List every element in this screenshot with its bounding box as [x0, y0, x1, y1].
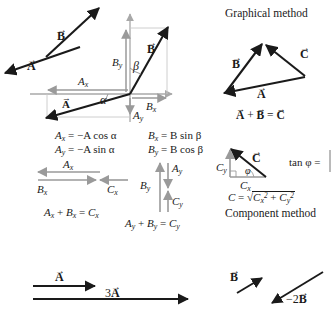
equation-Ay: Ay = −A sin α	[55, 144, 115, 157]
scalar-label-minus2B: −2→B	[286, 293, 307, 305]
graphical-label-B: →B	[232, 58, 240, 70]
equation-sum-x: Ax + Bx = Cx	[44, 207, 99, 220]
graphical-label-A: →A	[257, 88, 266, 100]
sum-label-Cx: Cx	[107, 184, 118, 197]
label-Bx: Bx	[146, 101, 156, 114]
graphical-equation: →A + →B = →C	[236, 110, 285, 122]
axis-vector-B-label: →B	[147, 43, 155, 55]
sum-label-Ay: Ay	[172, 163, 182, 176]
angle-label-phi: φ	[245, 166, 251, 176]
tan-phi-formula: tan φ =	[289, 157, 321, 168]
equation-Bx: Bx = B sin β	[148, 130, 201, 143]
vector-diagram-figure: →A →B →B →A By Bx Ax Ay α β Ax = −A cos …	[0, 0, 335, 315]
free-vector-A	[5, 47, 80, 73]
scalar-label-A: →A	[55, 271, 64, 283]
graphical-label-C: →C	[300, 48, 309, 60]
free-vector-A-label: →A	[27, 60, 36, 72]
sum-label-By: By	[140, 180, 150, 193]
sum-label-Cy: Cy	[172, 196, 183, 209]
scalar-label-B: →B	[230, 271, 238, 283]
sum-label-Bx: Bx	[37, 184, 47, 197]
right-angle-marker	[230, 171, 236, 177]
label-By: By	[112, 57, 122, 70]
label-Ay: Ay	[133, 110, 143, 123]
label-Ax: Ax	[78, 76, 88, 89]
axis-vector-A	[46, 94, 130, 118]
angle-label-alpha: α	[100, 94, 106, 106]
graphical-method-heading: Graphical method	[225, 8, 308, 20]
free-vector-B-label: →B	[57, 30, 65, 42]
angle-label-beta: β	[133, 60, 139, 72]
magnitude-formula: C = √Cx2 + Cy2	[228, 191, 295, 205]
component-label-C: →C	[252, 152, 261, 164]
axis-vector-A-label: →A	[62, 99, 70, 110]
equation-sum-y: Ay + By = Cy	[125, 218, 180, 231]
figure-canvas	[0, 0, 335, 315]
sum-label-Ax: Ax	[63, 159, 73, 172]
component-label-Cy: Cy	[216, 162, 227, 175]
scalar-label-3A: 3→A	[105, 287, 120, 299]
equation-By: By = B cos β	[148, 144, 203, 157]
equation-Ax: Ax = −A cos α	[55, 130, 116, 143]
scalar-vector-B	[237, 278, 262, 293]
component-method-heading: Component method	[225, 208, 316, 220]
